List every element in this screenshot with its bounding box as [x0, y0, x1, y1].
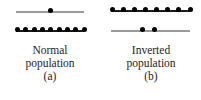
panel-b-caption-tag: (b) [101, 70, 201, 83]
panel-a-lower-level-dots [16, 25, 84, 37]
panel-b-lower-level-dots [111, 25, 190, 37]
panel-b-upper-level [111, 5, 190, 17]
population-dot [121, 7, 126, 12]
population-dot [140, 27, 145, 32]
population-dot [32, 27, 37, 32]
panel-a-caption-line1: Normal [0, 44, 100, 57]
population-dot [15, 27, 20, 32]
population-dot [48, 8, 53, 13]
panel-a-upper-level [16, 6, 84, 18]
panel-inverted-population: Inverted population (b) [101, 0, 201, 100]
population-dot [82, 27, 87, 32]
population-dot [188, 7, 193, 12]
panel-b-upper-level-dots [111, 5, 190, 17]
population-dot [57, 27, 62, 32]
panel-a-lower-level [16, 25, 84, 37]
panel-a-caption-tag: (a) [0, 70, 100, 83]
panel-b-caption-line1: Inverted [101, 44, 201, 57]
population-dot [176, 7, 181, 12]
panel-b-diagram [101, 0, 201, 42]
population-dot [132, 7, 137, 12]
panel-b-caption-line2: population [101, 57, 201, 70]
population-dot [165, 7, 170, 12]
panel-b-caption: Inverted population (b) [101, 44, 201, 83]
population-dot [48, 27, 53, 32]
population-dot [65, 27, 70, 32]
panel-normal-population: Normal population (a) [0, 0, 100, 100]
population-dot [110, 7, 115, 12]
panel-b-lower-level [111, 25, 190, 37]
population-dot [23, 27, 28, 32]
population-dot [73, 27, 78, 32]
panel-a-caption: Normal population (a) [0, 44, 100, 83]
panel-a-upper-level-dots [16, 6, 84, 18]
panel-a-diagram [0, 0, 100, 42]
population-dot [152, 27, 157, 32]
population-dot [154, 7, 159, 12]
figure-canvas: Normal population (a) Inverted populatio… [0, 0, 201, 100]
population-dot [40, 27, 45, 32]
panel-a-caption-line2: population [0, 57, 100, 70]
population-dot [143, 7, 148, 12]
